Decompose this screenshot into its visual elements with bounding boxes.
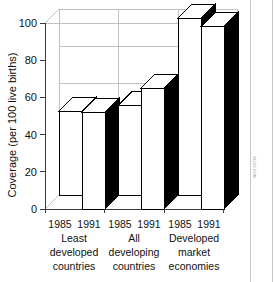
bar-chart-svg: 0 20 40 60 80 100 Coverage (per 100 live… xyxy=(0,0,274,282)
y-axis-title: Coverage (per 100 live births) xyxy=(6,53,18,198)
x-category-developed-line-1: Developed xyxy=(169,232,219,244)
bar-1991-developed-market xyxy=(201,13,238,209)
bar-1991-all-developing xyxy=(141,74,178,209)
x-category-developed-line-2: market xyxy=(178,246,210,258)
x-group-developed-market: 1985 1991 Developed market economies xyxy=(168,218,221,272)
x-year-label-4: 1991 xyxy=(137,218,161,230)
x-year-label-3: 1985 xyxy=(108,218,132,230)
x-category-all-line-3: countries xyxy=(113,260,156,272)
y-tick-label-60: 60 xyxy=(25,91,37,103)
x-axis-ticks xyxy=(45,209,223,213)
wall-left-top-edge xyxy=(45,9,59,23)
y-axis-ticks xyxy=(40,23,45,209)
x-category-all-line-1: All xyxy=(128,232,140,244)
x-category-least-line-3: countries xyxy=(53,260,96,272)
y-tick-label-40: 40 xyxy=(25,129,37,141)
chart-figure: 0 20 40 60 80 100 Coverage (per 100 live… xyxy=(0,0,274,282)
x-category-least-line-1: Least xyxy=(61,232,87,244)
x-category-least-line-2: developed xyxy=(50,246,99,258)
x-group-all-developing: 1985 1991 All developing countries xyxy=(108,218,161,272)
x-category-developed-line-3: economies xyxy=(169,260,220,272)
x-group-least-developed: 1985 1991 Least developed countries xyxy=(48,218,101,272)
x-year-label-6: 1991 xyxy=(197,218,221,230)
x-category-all-line-2: developing xyxy=(109,246,160,258)
y-tick-label-80: 80 xyxy=(25,54,37,66)
source-credit-text: WHO 93738 xyxy=(253,156,257,178)
x-year-label-5: 1985 xyxy=(168,218,192,230)
y-axis-tick-labels: 0 20 40 60 80 100 xyxy=(19,17,37,215)
y-tick-label-20: 20 xyxy=(25,166,37,178)
y-tick-label-100: 100 xyxy=(19,17,37,29)
x-year-label-1: 1985 xyxy=(48,218,72,230)
x-year-label-2: 1991 xyxy=(77,218,101,230)
bar-1991-least-developed xyxy=(82,98,119,209)
y-tick-label-0: 0 xyxy=(31,203,37,215)
